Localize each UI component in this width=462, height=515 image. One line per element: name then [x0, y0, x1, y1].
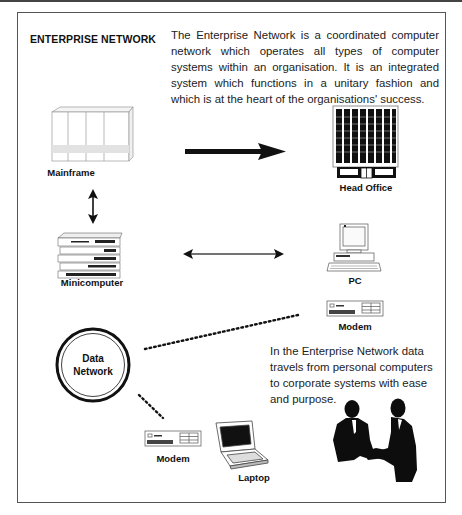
data-network-line1: Data	[58, 352, 128, 365]
desktop-pc-icon	[327, 224, 381, 271]
mainframe-icon	[52, 107, 133, 161]
thick-arrow-icon	[185, 143, 286, 160]
diagram-graphics	[0, 0, 462, 515]
dotted-link-lower	[139, 395, 163, 418]
label-modem-2: Modem	[153, 453, 193, 464]
handshake-icon	[333, 399, 417, 483]
label-pc: PC	[340, 275, 370, 286]
label-head-office: Head Office	[330, 182, 402, 193]
label-modem-1: Modem	[335, 321, 375, 332]
modem-icon	[145, 431, 201, 446]
label-laptop: Laptop	[232, 472, 276, 483]
data-network-label: Data Network	[58, 352, 128, 378]
vertical-double-arrow-icon	[88, 189, 98, 224]
laptop-icon	[216, 421, 268, 469]
minicomputer-icon	[58, 233, 122, 278]
building-icon	[333, 106, 398, 178]
side-paragraph: In the Enterprise Network data travels f…	[270, 343, 445, 407]
label-mainframe: Mainframe	[40, 167, 102, 178]
modem-icon	[327, 301, 383, 316]
horizontal-double-arrow-icon	[183, 249, 284, 259]
data-network-line2: Network	[58, 365, 128, 378]
label-minicomputer: Minicomputer	[52, 277, 132, 288]
